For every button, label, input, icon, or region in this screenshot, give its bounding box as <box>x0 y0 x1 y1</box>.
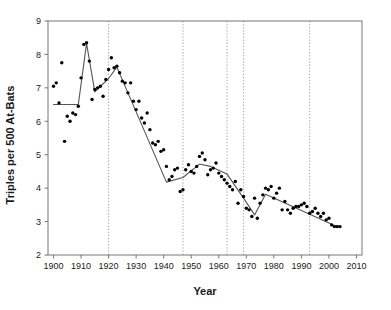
data-point <box>60 61 63 64</box>
data-point <box>278 186 281 189</box>
data-point <box>261 193 264 196</box>
data-point <box>143 121 146 124</box>
data-point <box>57 101 60 104</box>
data-point <box>101 95 104 98</box>
data-point <box>148 128 151 131</box>
data-point <box>231 188 234 191</box>
data-point <box>327 217 330 220</box>
data-point <box>176 166 179 169</box>
data-point <box>90 98 93 101</box>
data-point <box>55 81 58 84</box>
chart-figure: 1900191019201930194019501960197019801990… <box>0 0 391 310</box>
data-point <box>253 196 256 199</box>
x-tick-label-1920: 1920 <box>99 261 119 271</box>
data-point <box>217 171 220 174</box>
data-point <box>74 113 77 116</box>
y-axis-title: Triples per 500 At-Bats <box>4 86 16 205</box>
data-point <box>322 212 325 215</box>
data-point <box>316 212 319 215</box>
data-point <box>77 105 80 108</box>
data-point <box>319 215 322 218</box>
data-point <box>104 78 107 81</box>
data-point <box>214 161 217 164</box>
data-point <box>184 168 187 171</box>
data-point <box>167 178 170 181</box>
data-point <box>140 116 143 119</box>
y-tick-label-7: 7 <box>36 83 41 93</box>
data-point <box>187 163 190 166</box>
x-tick-label-1980: 1980 <box>264 261 284 271</box>
x-tick-label-1970: 1970 <box>236 261 256 271</box>
data-point <box>256 217 259 220</box>
data-point <box>123 81 126 84</box>
data-point <box>269 185 272 188</box>
data-point <box>212 166 215 169</box>
x-tick-label-1910: 1910 <box>71 261 91 271</box>
data-point <box>134 108 137 111</box>
data-point <box>107 68 110 71</box>
data-point <box>275 191 278 194</box>
data-point <box>236 201 239 204</box>
data-point <box>63 140 66 143</box>
data-point <box>242 195 245 198</box>
data-point <box>234 180 237 183</box>
data-point <box>126 91 129 94</box>
scatter-plot-svg: 1900191019201930194019501960197019801990… <box>0 0 391 310</box>
data-point <box>88 59 91 62</box>
data-point <box>85 41 88 44</box>
data-point <box>239 188 242 191</box>
data-point <box>311 210 314 213</box>
data-point <box>286 208 289 211</box>
y-tick-label-8: 8 <box>36 50 41 60</box>
data-point <box>192 171 195 174</box>
data-point <box>52 84 55 87</box>
data-point <box>156 140 159 143</box>
data-point <box>181 188 184 191</box>
y-tick-label-3: 3 <box>36 217 41 227</box>
data-point <box>283 200 286 203</box>
data-point <box>145 111 148 114</box>
data-point <box>115 64 118 67</box>
data-point <box>228 185 231 188</box>
data-point <box>272 196 275 199</box>
x-tick-label-1990: 1990 <box>291 261 311 271</box>
y-tick-label-4: 4 <box>36 183 41 193</box>
y-tick-label-6: 6 <box>36 117 41 127</box>
data-point <box>110 56 113 59</box>
data-point <box>129 81 132 84</box>
x-tick-label-1900: 1900 <box>43 261 63 271</box>
data-point <box>250 215 253 218</box>
data-point <box>223 178 226 181</box>
data-point <box>206 173 209 176</box>
x-tick-label-1940: 1940 <box>154 261 174 271</box>
data-point <box>132 100 135 103</box>
y-tick-label-9: 9 <box>36 16 41 26</box>
data-point <box>305 205 308 208</box>
data-point <box>170 175 173 178</box>
y-tick-label-2: 2 <box>36 250 41 260</box>
x-tick-label-2000: 2000 <box>319 261 339 271</box>
data-point <box>220 175 223 178</box>
data-point <box>118 71 121 74</box>
data-point <box>201 151 204 154</box>
data-point <box>338 225 341 228</box>
data-point <box>79 76 82 79</box>
x-tick-label-2010: 2010 <box>346 261 366 271</box>
x-tick-label-1930: 1930 <box>126 261 146 271</box>
data-point <box>154 143 157 146</box>
data-point <box>280 208 283 211</box>
data-point <box>225 181 228 184</box>
data-point <box>198 155 201 158</box>
data-point <box>289 212 292 215</box>
x-tick-label-1950: 1950 <box>181 261 201 271</box>
data-point <box>137 100 140 103</box>
data-point <box>162 148 165 151</box>
data-point <box>267 188 270 191</box>
data-point <box>302 201 305 204</box>
data-point <box>258 201 261 204</box>
x-tick-label-1960: 1960 <box>209 261 229 271</box>
data-point <box>165 165 168 168</box>
data-point <box>68 120 71 123</box>
data-point <box>313 207 316 210</box>
y-tick-label-5: 5 <box>36 150 41 160</box>
